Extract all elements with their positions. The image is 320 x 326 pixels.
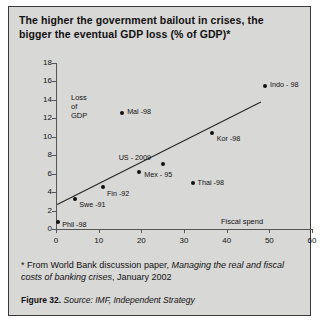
y-tick [52, 81, 57, 82]
x-tick [227, 229, 228, 233]
x-tick-label: 0 [44, 236, 68, 245]
y-tick [52, 63, 57, 64]
data-point [210, 131, 214, 135]
figure-number: Figure 32. [21, 295, 61, 305]
y-tick-label: 0 [30, 225, 52, 233]
y-tick-label: 14 [30, 96, 52, 104]
x-tick-label: 30 [172, 236, 196, 245]
data-point [263, 84, 267, 88]
x-tick-label: 10 [87, 236, 111, 245]
x-tick-label: 60 [300, 236, 320, 245]
y-tick [52, 155, 57, 156]
data-point-label: Fin -92 [107, 190, 129, 198]
data-point [120, 111, 124, 115]
x-tick-label: 50 [257, 236, 281, 245]
data-point [191, 181, 195, 185]
y-tick-label: 18 [30, 59, 52, 67]
y-tick [52, 100, 57, 101]
data-point-label: Phil -98 [62, 221, 86, 229]
y-axis-title-line: GDP [71, 111, 87, 120]
y-tick-label: 8 [30, 151, 52, 159]
data-point-label: Indo - 98 [270, 81, 298, 89]
chart-title: The higher the government bailout in cri… [19, 14, 299, 41]
trend-line [57, 102, 261, 205]
y-tick [52, 174, 57, 175]
data-point [137, 170, 141, 174]
footnote: * From World Bank discussion paper, Mana… [21, 259, 299, 283]
footnote-suffix: , January 2002 [112, 272, 172, 282]
y-axis-title: LossofGDP [71, 93, 87, 120]
x-tick [184, 229, 185, 233]
y-tick-label: 10 [30, 133, 52, 141]
x-tick [312, 229, 313, 233]
data-point-label: US - 2009 [119, 154, 151, 162]
y-tick-label: 16 [30, 77, 52, 85]
data-point-label: Swe -91 [79, 201, 105, 209]
y-tick [52, 192, 57, 193]
x-tick [56, 229, 57, 233]
y-tick [52, 118, 57, 119]
y-tick-label: 2 [30, 207, 52, 215]
footnote-prefix: * From World Bank discussion paper, [21, 260, 171, 270]
data-point [56, 220, 60, 224]
x-axis-title: Fiscal spend [221, 217, 263, 226]
data-point [101, 185, 105, 189]
y-tick-label: 6 [30, 170, 52, 178]
data-point-label: Thai -98 [198, 179, 224, 187]
data-point-label: Mex - 95 [144, 171, 172, 179]
y-tick [52, 137, 57, 138]
y-axis-title-line: of [71, 102, 87, 111]
plot-area: 024681012141618 0102030405060 Phil -98Sw… [9, 57, 310, 253]
data-point [73, 197, 77, 201]
x-tick [99, 229, 100, 233]
data-point [161, 162, 165, 166]
y-tick-label: 4 [30, 188, 52, 196]
y-tick [52, 211, 57, 212]
x-tick [269, 229, 270, 233]
y-axis-title-line: Loss [71, 93, 87, 102]
x-tick-label: 40 [215, 236, 239, 245]
y-tick-label: 12 [30, 114, 52, 122]
x-tick-label: 20 [129, 236, 153, 245]
x-tick [141, 229, 142, 233]
figure-panel: The higher the government bailout in cri… [8, 6, 311, 316]
figure-source: Source: IMF, Independent Strategy [64, 295, 195, 305]
data-point-label: Mal -98 [127, 108, 151, 116]
data-point-label: Kor -98 [217, 135, 241, 143]
figure-caption: Figure 32. Source: IMF, Independent Stra… [21, 295, 299, 305]
